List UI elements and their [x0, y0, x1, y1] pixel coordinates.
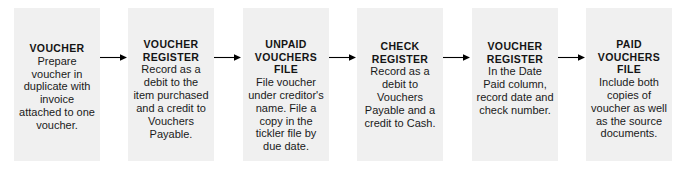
flow-node-title: VOUCHER	[18, 42, 96, 55]
flow-node-voucher-register-1: VOUCHER REGISTER Record as a debit to th…	[128, 8, 214, 161]
flow-node-body: In the Date Paid column, record date and…	[476, 65, 554, 117]
flow-node-title: CHECK REGISTER	[361, 40, 439, 65]
flow-node-body: Include both copies of voucher as well a…	[590, 76, 668, 141]
flow-node-paid-vouchers-file: PAID VOUCHERS FILE Include both copies o…	[586, 8, 672, 161]
arrow-right-icon	[328, 51, 357, 64]
flow-node-voucher: VOUCHER Prepare voucher in duplicate wit…	[14, 8, 100, 161]
flow-node-title: VOUCHER REGISTER	[476, 40, 554, 65]
flow-node-body: Record as a debit to Vouchers Payable an…	[361, 65, 439, 130]
flow-node-content: VOUCHER REGISTER In the Date Paid column…	[476, 38, 554, 117]
flow-node-voucher-register-2: VOUCHER REGISTER In the Date Paid column…	[472, 8, 558, 161]
flow-node-title: PAID VOUCHERS FILE	[590, 38, 668, 76]
flow-node-body: Record as a debit to the item purchased …	[132, 63, 210, 140]
voucher-system-flowchart: VOUCHER Prepare voucher in duplicate wit…	[0, 0, 679, 171]
flow-node-title: VOUCHER REGISTER	[132, 38, 210, 63]
arrow-right-icon	[442, 51, 471, 64]
flow-node-title: UNPAID VOUCHERS FILE	[247, 38, 325, 76]
flow-node-content: VOUCHER Prepare voucher in duplicate wit…	[18, 38, 96, 132]
arrow-right-icon	[213, 51, 242, 64]
arrow-right-icon	[99, 51, 128, 64]
arrow-right-icon	[557, 51, 586, 64]
flow-node-content: UNPAID VOUCHERS FILE File voucher under …	[247, 38, 325, 153]
flow-node-unpaid-vouchers-file: UNPAID VOUCHERS FILE File voucher under …	[243, 8, 329, 161]
flow-node-content: CHECK REGISTER Record as a debit to Vouc…	[361, 38, 439, 130]
flow-node-content: PAID VOUCHERS FILE Include both copies o…	[590, 38, 668, 140]
flow-node-body: File voucher under creditor's name. File…	[247, 76, 325, 153]
flow-node-content: VOUCHER REGISTER Record as a debit to th…	[132, 38, 210, 141]
flow-node-check-register: CHECK REGISTER Record as a debit to Vouc…	[357, 8, 443, 161]
flow-node-body: Prepare voucher in duplicate with invoic…	[18, 55, 96, 132]
